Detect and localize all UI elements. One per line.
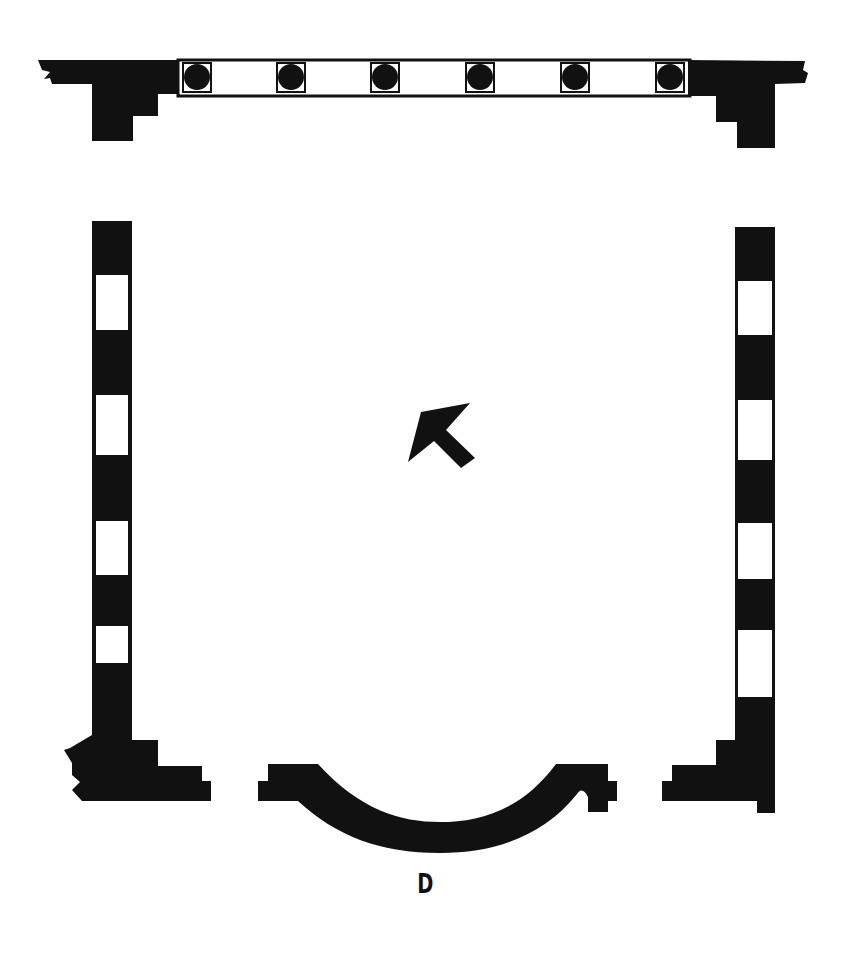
left-opening-1 [96, 275, 128, 330]
left-opening-2 [96, 395, 128, 455]
left-opening-4 [96, 626, 128, 663]
top-left-corner-pier [38, 60, 180, 141]
floor-plan-diagram [0, 0, 851, 964]
bottom-right-corner-block [662, 705, 775, 813]
right-opening-2 [738, 400, 772, 460]
rear-apse [258, 764, 617, 853]
plan-label: D [119, 868, 732, 899]
bottom-left-corner-block [64, 735, 211, 801]
left-opening-3 [96, 521, 128, 575]
north-arrow-icon [408, 403, 475, 468]
right-opening-3 [738, 523, 772, 579]
right-opening-1 [738, 281, 772, 335]
left-side-wall [92, 221, 132, 741]
right-side-wall [735, 227, 775, 707]
top-colonnade [178, 60, 690, 96]
top-right-corner-pier [688, 60, 808, 148]
right-opening-4 [738, 630, 772, 697]
